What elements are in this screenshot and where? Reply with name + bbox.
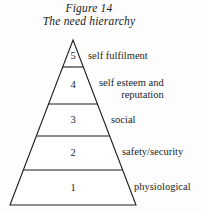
level-number-1: 1 bbox=[60, 182, 86, 193]
level-label-4: self esteem and reputation bbox=[99, 77, 164, 101]
level-number-2: 2 bbox=[60, 147, 86, 158]
level-label-4-line-2: reputation bbox=[99, 89, 164, 101]
level-label-2-line-1: safety/security bbox=[122, 146, 183, 158]
level-label-4-line-1: self esteem and bbox=[99, 77, 164, 89]
level-label-2: safety/security bbox=[122, 146, 183, 158]
figure-container: Figure 14 The need hierarchy 5 4 3 2 1 s… bbox=[0, 0, 206, 213]
level-number-3: 3 bbox=[60, 114, 86, 125]
level-number-4: 4 bbox=[60, 79, 86, 90]
level-label-3-line-1: social bbox=[111, 114, 136, 126]
level-label-1-line-1: physiological bbox=[134, 181, 191, 193]
level-label-5: self fulfilment bbox=[88, 50, 148, 62]
level-label-3: social bbox=[111, 114, 136, 126]
level-number-5: 5 bbox=[60, 50, 86, 61]
level-label-1: physiological bbox=[134, 181, 191, 193]
level-label-5-line-1: self fulfilment bbox=[88, 50, 148, 62]
